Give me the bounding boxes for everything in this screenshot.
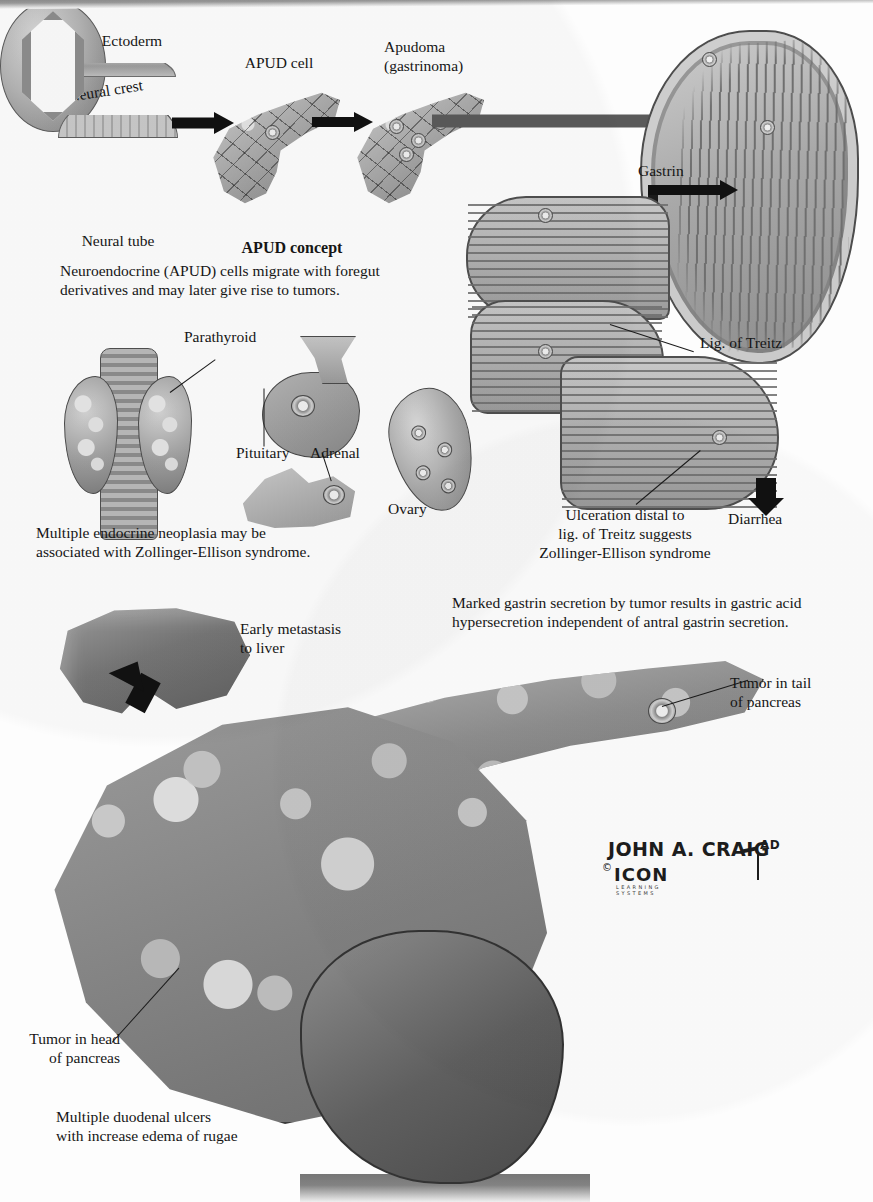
- label-neural-tube: Neural tube: [58, 232, 178, 251]
- publisher-sub-systems: SYSTEMS: [616, 890, 656, 896]
- jejunum-illustration: [560, 356, 779, 510]
- label-tumor-head: Tumor in head of pancreas: [0, 1030, 120, 1068]
- ovary-illustration: [380, 381, 484, 519]
- duodenal-ulcer-icon: [538, 208, 553, 223]
- publisher-logo: ICON: [614, 864, 668, 885]
- label-apudoma: Apudoma (gastrinoma): [384, 38, 524, 76]
- label-apud-cell: APUD cell: [224, 54, 334, 73]
- arrow-neural-to-apud-icon: [172, 112, 234, 134]
- label-adrenal: Adrenal: [310, 444, 360, 463]
- label-ulceration: Ulceration distal to lig. of Treitz sugg…: [520, 506, 730, 563]
- label-early-metastasis: Early metastasis to liver: [240, 620, 341, 658]
- antrum-illustration: [300, 930, 564, 1184]
- apud-cell-illustration: [208, 88, 340, 208]
- diarrhea-arrow-shaft-icon: [756, 478, 776, 500]
- apudoma-illustration: [352, 88, 484, 208]
- caption-gastrin-secretion: Marked gastrin secretion by tumor result…: [452, 594, 872, 632]
- adrenal-illustration: [238, 464, 360, 532]
- duodenal-ulcer-icon: [538, 344, 553, 359]
- liver-illustration: [56, 606, 250, 718]
- gastric-ulcer-icon: [760, 120, 775, 135]
- illustration-plate: Ectoderm Neural crest Neural tube APUD c…: [0, 0, 873, 1202]
- signature-stroke-icon: [757, 852, 759, 880]
- label-ectoderm: Ectoderm: [72, 32, 192, 51]
- label-tumor-tail: Tumor in tail of pancreas: [730, 674, 811, 712]
- caption-apud-concept: Neuroendocrine (APUD) cells migrate with…: [60, 262, 420, 300]
- arrow-apud-to-apudoma-icon: [312, 112, 374, 132]
- caption-duodenal-ulcers: Multiple duodenal ulcers with increase e…: [56, 1108, 356, 1146]
- thyroid-parathyroid-illustration: [62, 348, 194, 538]
- copyright-symbol: ©: [602, 862, 612, 873]
- label-lig-of-treitz: Lig. of Treitz: [700, 334, 782, 353]
- label-diarrhea: Diarrhea: [728, 510, 782, 529]
- artist-signature-suffix: AD: [760, 838, 780, 852]
- caption-men: Multiple endocrine neoplasia may be asso…: [36, 524, 416, 562]
- jejunal-ulcer-icon: [712, 430, 727, 445]
- heading-apud-concept: APUD concept: [212, 238, 372, 258]
- gastric-ulcer-icon: [702, 52, 717, 67]
- label-parathyroid: Parathyroid: [184, 328, 256, 347]
- leader-pituitary: [264, 389, 265, 447]
- label-ovary: Ovary: [388, 500, 427, 519]
- label-gastrin: Gastrin: [638, 162, 684, 181]
- gastrin-arrow-icon: [648, 180, 740, 200]
- label-pituitary: Pituitary: [236, 444, 289, 463]
